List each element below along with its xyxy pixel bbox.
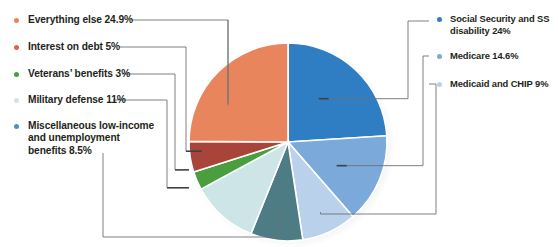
legend-bullet-military-defense (14, 98, 19, 103)
legend-label-line: disability 24% (450, 25, 549, 37)
legend-bullet-everything-else (14, 18, 19, 23)
legend-bullet-veterans-benefits (14, 72, 19, 77)
legend-item-interest-on-debt[interactable]: Interest on debt 5% (14, 41, 120, 53)
legend-bullet-medicare (437, 54, 442, 59)
legend-label-line: benefits 8.5% (28, 145, 154, 157)
legend-label-line: Medicare 14.6% (450, 50, 518, 62)
legend-item-everything-else[interactable]: Everything else 24.9% (14, 14, 133, 26)
legend-bullet-social-security (437, 17, 442, 22)
legend-label-line: Everything else 24.9% (28, 14, 133, 26)
legend-item-military-defense[interactable]: Military defense 11% (14, 94, 126, 106)
legend-label-line: Veterans’ benefits 3% (28, 68, 130, 80)
legend-label-line: and unemployment (28, 132, 154, 144)
legend-label-line: Interest on debt 5% (28, 41, 120, 53)
legend-label-line: Miscellaneous low-income (28, 120, 154, 132)
legend-bullet-miscellaneous-benefits (14, 124, 19, 129)
legend-item-medicaid-chip[interactable]: Medicaid and CHIP 9% (437, 78, 548, 90)
pie-slice[interactable] (288, 43, 387, 142)
legend-item-veterans-benefits[interactable]: Veterans’ benefits 3% (14, 68, 130, 80)
pie-slice[interactable] (189, 43, 288, 142)
chart-canvas: Everything else 24.9% Interest on debt 5… (0, 0, 558, 247)
legend-label-line: Social Security and SS (450, 13, 549, 25)
legend-label-line: Military defense 11% (28, 94, 126, 106)
pie-slices (189, 43, 387, 241)
legend-item-miscellaneous-benefits[interactable]: Miscellaneous low-income and unemploymen… (14, 120, 154, 157)
legend-item-social-security[interactable]: Social Security and SS disability 24% (437, 13, 549, 36)
legend-bullet-interest-on-debt (14, 45, 19, 50)
legend-label-line: Medicaid and CHIP 9% (450, 78, 548, 90)
legend-item-medicare[interactable]: Medicare 14.6% (437, 50, 518, 62)
legend-bullet-medicaid-chip (437, 82, 442, 87)
